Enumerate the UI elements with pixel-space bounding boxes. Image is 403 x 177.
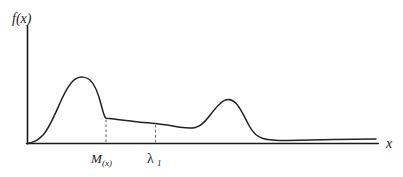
density-curve — [28, 77, 377, 143]
y-axis-label: f(x) — [12, 11, 32, 27]
tick-label-m-of-x-subscript: (x) — [102, 158, 112, 168]
tick-label-lambda1-subscript: 1 — [157, 158, 162, 168]
plot-svg: f(x) x M (x) λ 1 — [0, 0, 403, 177]
tick-label-m-of-x: M (x) — [90, 151, 112, 168]
tick-label-lambda1-base: λ — [147, 151, 154, 166]
tick-label-lambda1: λ 1 — [147, 151, 162, 168]
figure-container: f(x) x M (x) λ 1 — [0, 0, 403, 177]
x-axis-label: x — [385, 136, 393, 151]
